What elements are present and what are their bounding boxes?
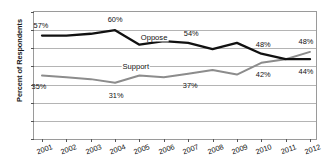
x-tick-label-2004: 2004 [108,142,127,156]
y-tick-mark [31,139,34,140]
data-label-oppose-2001: 57% [34,20,49,29]
x-tick-mark [91,139,92,142]
series-label-oppose: Oppose [140,32,169,41]
data-label-support-2004: 31% [109,90,124,99]
data-label-support-2007: 37% [183,80,198,89]
series-label-support: Support [121,61,150,70]
x-tick-mark [286,139,287,142]
x-tick-label-2005: 2005 [133,142,152,156]
x-tick-label-2012: 2012 [303,142,322,156]
data-label-oppose-2012: 44% [299,67,314,76]
x-tick-label-2006: 2006 [157,142,176,156]
series-layer [34,12,316,139]
x-tick-mark [66,139,67,142]
plot-area: 0102030405060702001200220032004200520062… [33,11,317,140]
x-tick-mark [115,139,116,142]
line-chart: Percent of Respondents 01020304050607020… [0,0,323,163]
data-label-oppose-2004: 60% [108,15,123,24]
x-tick-mark [213,139,214,142]
data-label-support-2001: 35% [32,81,47,90]
x-tick-mark [310,139,311,142]
x-tick-mark [261,139,262,142]
data-label-support-2010: 42% [256,69,271,78]
x-tick-mark [188,139,189,142]
x-tick-label-2003: 2003 [84,142,103,156]
y-axis-title: Percent of Respondents [15,1,24,121]
x-tick-label-2007: 2007 [181,142,200,156]
data-label-oppose-2010: 48% [256,39,271,48]
x-tick-label-2001: 2001 [35,142,54,156]
x-tick-label-2002: 2002 [60,142,79,156]
x-tick-mark [139,139,140,142]
x-tick-mark [42,139,43,142]
x-tick-label-2011: 2011 [279,142,297,156]
x-tick-label-2010: 2010 [255,142,274,156]
x-tick-label-2008: 2008 [206,142,225,156]
data-label-oppose-2007: 54% [184,28,199,37]
data-label-support-2012: 48% [299,36,314,45]
x-tick-mark [164,139,165,142]
x-tick-mark [237,139,238,142]
x-tick-label-2009: 2009 [230,142,249,156]
